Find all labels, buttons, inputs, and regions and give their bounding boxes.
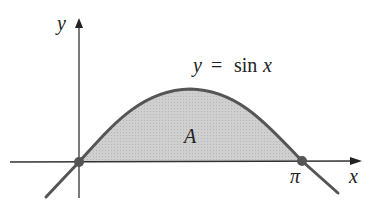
svg-text:x: x xyxy=(262,54,272,76)
pi-label: π xyxy=(290,165,301,187)
y-axis-arrow-icon xyxy=(75,18,83,28)
y-axis-label: y xyxy=(55,12,66,35)
origin-point xyxy=(74,157,84,167)
x-axis-arrow-icon xyxy=(350,157,362,165)
svg-text:=: = xyxy=(211,54,222,76)
region-label: A xyxy=(182,125,197,147)
curve-equation-label: y = sin x xyxy=(191,54,272,77)
diagram-svg: y x π A y = sin x xyxy=(0,0,370,219)
svg-text:sin: sin xyxy=(234,54,257,76)
x-axis-label: x xyxy=(348,165,358,187)
svg-text:y: y xyxy=(191,54,202,77)
sine-area-diagram: y x π A y = sin x xyxy=(0,0,370,219)
